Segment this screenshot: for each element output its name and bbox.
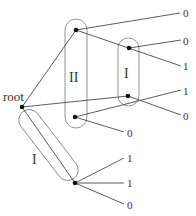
edge-n3-leaf-0 bbox=[129, 40, 181, 48]
node-root bbox=[20, 105, 25, 110]
node-n3 bbox=[127, 46, 132, 51]
edge-n4-leaf-0 bbox=[128, 96, 181, 115]
tree-diagram: root II I I 0 0 1 1 0 0 1 1 0 bbox=[0, 0, 196, 216]
leaf-label-right-0: 0 bbox=[183, 35, 189, 47]
leaf-label-bottom-2: 0 bbox=[127, 199, 133, 211]
leaf-label-bottom-0: 1 bbox=[127, 152, 133, 164]
node-n4 bbox=[126, 94, 131, 99]
leaf-label-bottom-1: 1 bbox=[127, 177, 133, 189]
leaf-label-right-2: 1 bbox=[183, 85, 189, 97]
leaf-label-mid: 0 bbox=[127, 127, 133, 139]
edge-n5-leaf-1a bbox=[75, 158, 124, 183]
root-label: root bbox=[3, 89, 24, 104]
group-I-upper-label: I bbox=[124, 66, 129, 81]
group-I-lower-label: I bbox=[32, 152, 37, 167]
edge-root-n2 bbox=[22, 96, 128, 107]
leaf-label-top: 0 bbox=[183, 7, 189, 19]
group-II-label: II bbox=[69, 70, 79, 85]
edge-n1-top-leaf bbox=[76, 13, 180, 30]
node-n2 bbox=[73, 115, 78, 120]
leaf-label-right-3: 0 bbox=[183, 110, 189, 122]
edge-root-n5 bbox=[22, 107, 75, 183]
edge-root-n1 bbox=[22, 30, 76, 107]
leaf-label-right-1: 1 bbox=[183, 60, 189, 72]
node-n1 bbox=[74, 28, 79, 33]
node-n5 bbox=[73, 181, 78, 186]
edge-n2-mid-leaf bbox=[75, 117, 124, 132]
edge-n5-leaf-0 bbox=[75, 183, 124, 204]
